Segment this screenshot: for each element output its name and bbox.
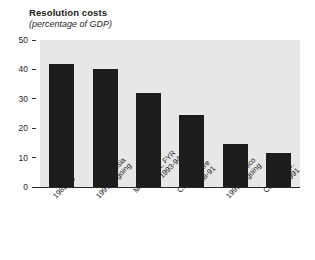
y-axis-tick-mark xyxy=(32,40,36,41)
y-axis-tick-mark xyxy=(32,157,36,158)
y-axis-tick-mark xyxy=(32,128,36,129)
y-axis-tick-label: 0 xyxy=(23,181,28,193)
x-axis: Chile1982-85Indonesia1997-ongoingMacedon… xyxy=(40,189,315,260)
y-axis: 01020304050 xyxy=(0,36,36,196)
y-axis-tick-label: 20 xyxy=(19,122,28,134)
y-axis-tick-mark xyxy=(32,69,36,70)
chart-subtitle: (percentage of GDP) xyxy=(29,19,279,30)
y-axis-tick-label: 40 xyxy=(19,63,28,75)
y-axis-tick-label: 30 xyxy=(19,93,28,105)
chart-title-block: Resolution costs (percentage of GDP) xyxy=(29,7,279,30)
resolution-costs-bar-chart: Resolution costs (percentage of GDP) 010… xyxy=(0,0,315,260)
chart-title: Resolution costs xyxy=(29,7,279,18)
y-axis-tick-mark xyxy=(32,98,36,99)
y-axis-tick-label: 50 xyxy=(19,34,28,46)
y-axis-tick-label: 10 xyxy=(19,152,28,164)
bar xyxy=(49,64,74,187)
